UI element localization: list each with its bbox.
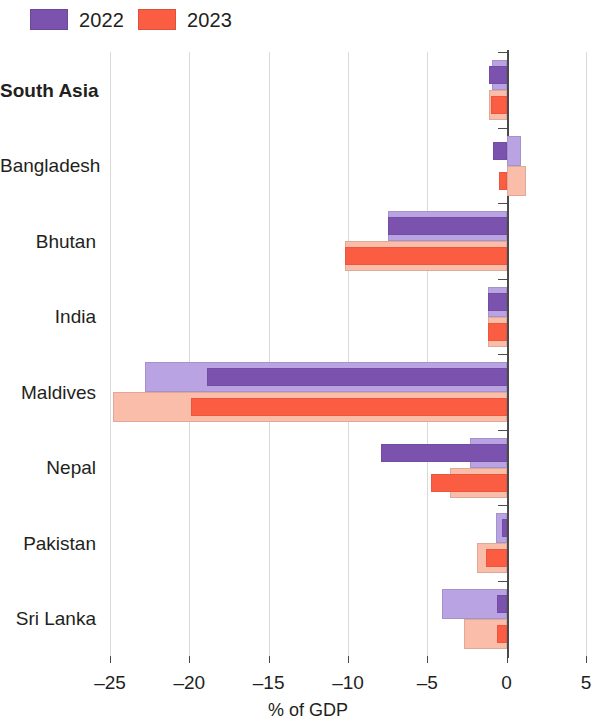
x-axis-tick bbox=[427, 656, 428, 663]
x-axis-tick-label: –20 bbox=[173, 673, 205, 692]
y-axis-tick bbox=[498, 52, 507, 53]
x-axis-tick-label: –5 bbox=[417, 673, 438, 692]
bar-group bbox=[110, 52, 586, 128]
bar-group bbox=[110, 354, 586, 430]
bar-2023-inner bbox=[486, 549, 507, 567]
bar-2022-inner bbox=[388, 217, 507, 235]
category-label: India bbox=[0, 307, 96, 326]
bar-2023-inner bbox=[191, 398, 507, 416]
bar-2022-inner bbox=[207, 368, 507, 386]
bar-group bbox=[110, 581, 586, 657]
x-axis-tick bbox=[189, 656, 190, 663]
y-axis-tick bbox=[498, 430, 507, 431]
plot-area bbox=[110, 52, 586, 656]
x-axis-tick bbox=[269, 656, 270, 663]
y-axis-tick bbox=[498, 581, 507, 582]
x-axis-tick bbox=[110, 656, 111, 663]
category-label: Nepal bbox=[0, 458, 96, 477]
bar-2023-outer bbox=[507, 166, 526, 196]
category-label: Bhutan bbox=[0, 232, 96, 251]
bar-2023-inner bbox=[491, 96, 507, 114]
bar-2022-inner bbox=[489, 66, 506, 84]
x-axis-tick bbox=[348, 656, 349, 663]
y-axis-tick bbox=[498, 203, 507, 204]
bar-2023-inner bbox=[497, 625, 507, 643]
bar-2022-inner bbox=[502, 519, 507, 537]
x-axis-tick-label: –15 bbox=[253, 673, 285, 692]
x-axis-tick-label: –25 bbox=[94, 673, 126, 692]
category-label: South Asia bbox=[0, 81, 96, 100]
bar-group bbox=[110, 203, 586, 279]
bar-2023-inner bbox=[431, 474, 507, 492]
bar-2023-inner bbox=[499, 172, 507, 190]
bar-group bbox=[110, 128, 586, 204]
bar-2022-inner bbox=[493, 142, 506, 160]
x-axis-tick-label: 5 bbox=[581, 673, 592, 692]
category-label: Bangladesh bbox=[0, 156, 96, 175]
bar-group bbox=[110, 505, 586, 581]
category-label: Sri Lanka bbox=[0, 609, 96, 628]
x-axis-tick bbox=[586, 656, 587, 663]
bar-group bbox=[110, 430, 586, 506]
bar-chart: % of GDP –25–20–15–10–505South AsiaBangl… bbox=[0, 0, 616, 724]
bar-2023-inner bbox=[488, 323, 507, 341]
bar-2022-inner bbox=[488, 293, 507, 311]
bar-2022-inner bbox=[497, 595, 507, 613]
category-label: Maldives bbox=[0, 383, 96, 402]
y-axis-tick bbox=[498, 279, 507, 280]
bar-2023-inner bbox=[345, 247, 507, 265]
bar-2022-outer bbox=[507, 136, 521, 166]
y-axis-tick bbox=[498, 505, 507, 506]
x-axis-tick-label: –10 bbox=[332, 673, 364, 692]
x-axis-title: % of GDP bbox=[0, 700, 616, 721]
bar-2022-inner bbox=[381, 444, 506, 462]
bar-group bbox=[110, 279, 586, 355]
x-axis-tick-label: 0 bbox=[501, 673, 512, 692]
y-axis-tick bbox=[498, 128, 507, 129]
y-axis-tick bbox=[498, 354, 507, 355]
gridline bbox=[586, 52, 587, 656]
category-label: Pakistan bbox=[0, 534, 96, 553]
